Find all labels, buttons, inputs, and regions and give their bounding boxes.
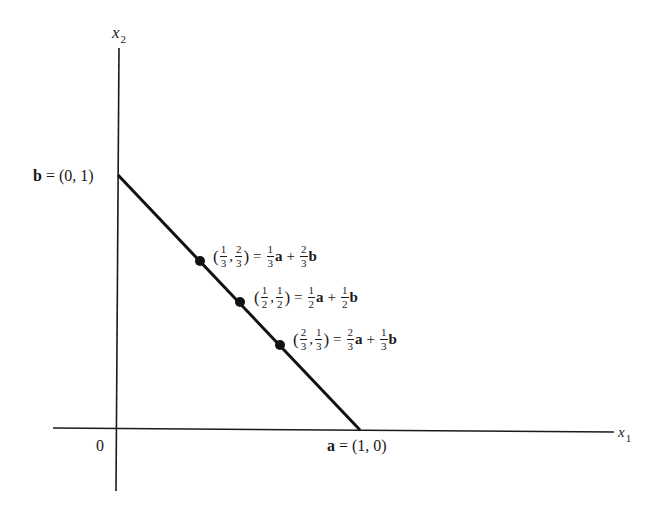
fraction-numerator: 2 — [300, 244, 308, 257]
fraction-denominator: 3 — [236, 257, 242, 269]
x1-label-sub: 1 — [626, 432, 632, 444]
frac-a-coef: 13 — [267, 244, 275, 269]
x1-axis-label: x1 — [618, 425, 631, 440]
b-coords: (0, 1) — [59, 167, 94, 184]
plus-sign: + — [367, 331, 375, 347]
fraction-numerator: 2 — [300, 327, 308, 340]
frac-y: 23 — [235, 244, 243, 269]
point-label-one-half: (12,12)=12a+12b — [254, 285, 358, 310]
fraction-denominator: 3 — [301, 257, 307, 269]
a-vector: a — [316, 289, 324, 305]
plus-sign: + — [328, 289, 336, 305]
parenthesis: ) — [323, 330, 329, 349]
fraction-numerator: 2 — [347, 327, 355, 340]
fraction-denominator: 3 — [268, 257, 274, 269]
equals-sign: = — [333, 331, 341, 347]
fraction-numerator: 1 — [261, 285, 269, 298]
a-vector: a — [275, 248, 283, 264]
point-one-third — [195, 256, 205, 266]
x1-axis — [53, 428, 614, 432]
origin-label: 0 — [96, 438, 104, 454]
endpoint-b-label: b = (0, 1) — [33, 168, 94, 184]
fraction-denominator: 3 — [301, 340, 307, 352]
comma: , — [229, 248, 233, 264]
x1-label-base: x — [618, 424, 625, 440]
fraction-denominator: 2 — [342, 298, 348, 310]
parenthesis: ) — [243, 247, 249, 266]
point-label-two-thirds: (23,13)=23a+13b — [293, 327, 397, 352]
fraction-denominator: 3 — [316, 340, 322, 352]
frac-b-coef: 23 — [300, 244, 308, 269]
fraction-numerator: 1 — [276, 285, 284, 298]
frac-a-coef: 23 — [347, 327, 355, 352]
fraction-numerator: 1 — [267, 244, 275, 257]
b-eq: = — [46, 167, 55, 184]
fraction-denominator: 3 — [221, 257, 227, 269]
b-vector: b — [33, 167, 42, 184]
b-vector: b — [309, 248, 317, 264]
frac-y: 13 — [315, 327, 323, 352]
parenthesis: ( — [293, 330, 299, 349]
x2-axis — [116, 48, 119, 491]
fraction-denominator: 2 — [277, 298, 283, 310]
comma: , — [309, 331, 313, 347]
b-vector: b — [389, 331, 397, 347]
x2-label-sub: 2 — [121, 33, 127, 45]
parenthesis: ) — [284, 288, 290, 307]
fraction-numerator: 1 — [315, 327, 323, 340]
point-one-half — [235, 297, 245, 307]
frac-b-coef: 12 — [341, 285, 349, 310]
endpoint-a-label: a = (1, 0) — [327, 438, 387, 454]
frac-x: 13 — [220, 244, 228, 269]
a-vector: a — [355, 331, 363, 347]
a-vector: a — [327, 437, 335, 454]
frac-b-coef: 13 — [380, 327, 388, 352]
frac-a-coef: 12 — [308, 285, 316, 310]
b-vector: b — [350, 289, 358, 305]
a-coords: (1, 0) — [352, 437, 387, 454]
x2-axis-label: x2 — [112, 24, 126, 41]
equals-sign: = — [253, 248, 261, 264]
fraction-denominator: 2 — [262, 298, 268, 310]
parenthesis: ( — [254, 288, 260, 307]
point-two-thirds — [275, 340, 285, 350]
a-eq: = — [339, 437, 348, 454]
point-label-one-third: (13,23)=13a+23b — [213, 244, 317, 269]
parenthesis: ( — [213, 247, 219, 266]
frac-x: 23 — [300, 327, 308, 352]
equals-sign: = — [294, 289, 302, 305]
fraction-numerator: 1 — [308, 285, 316, 298]
frac-y: 12 — [276, 285, 284, 310]
comma: , — [270, 289, 274, 305]
fraction-denominator: 3 — [348, 340, 354, 352]
plus-sign: + — [287, 248, 295, 264]
fraction-numerator: 1 — [380, 327, 388, 340]
fraction-numerator: 1 — [341, 285, 349, 298]
fraction-numerator: 1 — [220, 244, 228, 257]
x2-label-base: x — [112, 23, 120, 42]
fraction-denominator: 3 — [381, 340, 387, 352]
fraction-numerator: 2 — [235, 244, 243, 257]
frac-x: 12 — [261, 285, 269, 310]
fraction-denominator: 2 — [309, 298, 315, 310]
